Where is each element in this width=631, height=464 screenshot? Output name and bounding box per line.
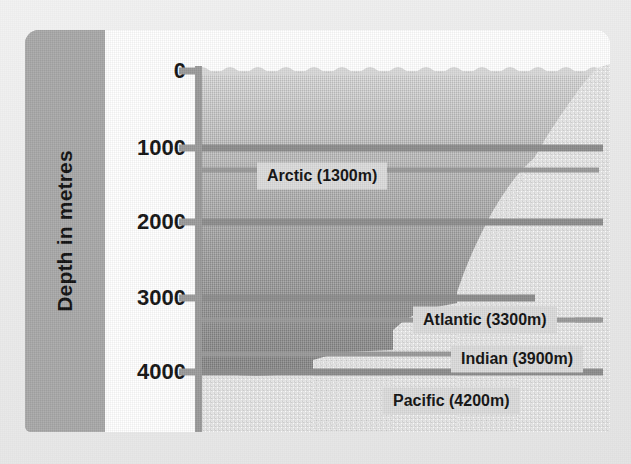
tick-mark-0 (179, 68, 202, 75)
ocean-cross-section: Arctic (1300m) Atlantic (3300m) Indian (… (195, 30, 610, 432)
ocean-label-indian: Indian (3900m) (451, 346, 583, 373)
y-axis-title: Depth in metres (53, 150, 77, 312)
ocean-label-arctic: Arctic (1300m) (257, 163, 387, 190)
tick-mark-3000 (179, 295, 202, 302)
y-axis-spine (195, 66, 202, 432)
ocean-label-atlantic: Atlantic (3300m) (413, 307, 557, 334)
depth-rule-indian-3900 (195, 352, 465, 357)
diagram-root: Depth in metres 0 1000 2000 3000 4000 (0, 0, 631, 464)
axis-title-band: Depth in metres (25, 30, 105, 432)
depth-rule-atlantic-stub (575, 318, 601, 323)
depth-rule-3000 (195, 295, 535, 302)
tick-mark-4000 (179, 369, 202, 376)
depth-rule-2000 (195, 219, 603, 226)
diagram-card: Depth in metres 0 1000 2000 3000 4000 (25, 30, 610, 432)
axis-title-wrapper: Depth in metres (25, 30, 105, 432)
ocean-label-pacific: Pacific (4200m) (383, 388, 520, 415)
depth-rule-arctic-1300 (195, 168, 599, 173)
depth-rule-1000 (195, 145, 603, 152)
tick-mark-2000 (179, 219, 202, 226)
tick-mark-1000 (179, 145, 202, 152)
